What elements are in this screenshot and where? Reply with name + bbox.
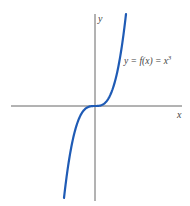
cubic-function-plot: y x y = f(x) = x3	[0, 0, 190, 206]
x-axis-label: x	[176, 109, 182, 120]
curve-equation-label: y = f(x) = x3	[123, 54, 172, 67]
y-axis-label: y	[97, 13, 103, 24]
